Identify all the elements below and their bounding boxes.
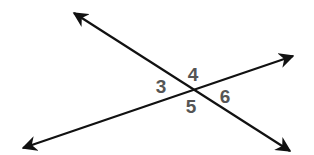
line-b	[23, 56, 293, 148]
angle-label-6: 6	[220, 86, 231, 107]
line-a	[74, 13, 290, 151]
angle-label-4: 4	[188, 64, 199, 85]
angle-label-5: 5	[186, 96, 197, 117]
intersecting-lines-diagram: 3 4 5 6	[0, 0, 314, 155]
angle-label-3: 3	[156, 76, 167, 97]
